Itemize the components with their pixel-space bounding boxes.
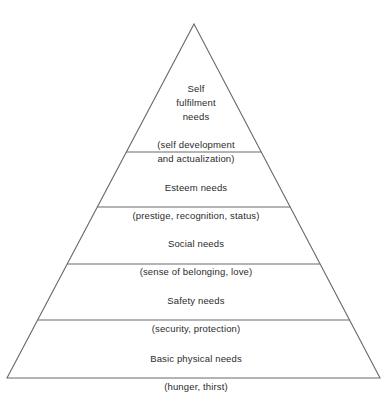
tier-subtitle-self-fulfilment: (self development and actualization) (0, 138, 392, 166)
tier-title-safety: Safety needs (0, 294, 392, 308)
tier-title-basic-physical: Basic physical needs (0, 352, 392, 366)
maslow-pyramid-diagram: Self fulfilment needs (self development … (0, 0, 392, 399)
tier-label-basic-physical: Basic physical needs (hunger, thirst) (0, 338, 392, 399)
tier-title-self-fulfilment: Self fulfilment needs (0, 82, 392, 124)
tier-title-esteem: Esteem needs (0, 181, 392, 195)
tier-label-self-fulfilment: Self fulfilment needs (self development … (0, 68, 392, 180)
tier-subtitle-social: (sense of belonging, love) (0, 265, 392, 279)
pyramid-labels-layer: Self fulfilment needs (self development … (0, 0, 392, 399)
tier-subtitle-safety: (security, protection) (0, 322, 392, 336)
tier-subtitle-basic-physical: (hunger, thirst) (0, 380, 392, 394)
tier-subtitle-esteem: (prestige, recognition, status) (0, 209, 392, 223)
tier-title-social: Social needs (0, 237, 392, 251)
